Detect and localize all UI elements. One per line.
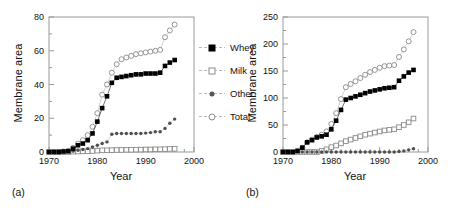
- data-point-other: [81, 148, 84, 151]
- data-point-whey: [334, 118, 339, 123]
- data-point-whey: [339, 108, 344, 113]
- data-point-whey: [392, 85, 397, 90]
- data-point-total: [109, 70, 114, 75]
- data-point-other: [388, 150, 391, 153]
- y-tick-label: 60: [34, 46, 44, 56]
- data-point-whey: [382, 86, 387, 91]
- data-point-total: [134, 52, 139, 57]
- data-point-milk: [114, 148, 119, 153]
- data-point-whey: [324, 132, 329, 137]
- data-point-whey: [110, 81, 115, 86]
- data-point-other: [115, 132, 118, 135]
- data-point-whey: [295, 149, 300, 154]
- data-point-whey: [373, 88, 378, 93]
- data-point-other: [100, 142, 103, 145]
- data-point-milk: [124, 148, 129, 153]
- data-point-milk: [406, 120, 411, 125]
- data-point-total: [129, 53, 134, 58]
- data-point-whey: [363, 91, 368, 96]
- data-point-milk: [377, 129, 382, 134]
- data-point-whey: [172, 58, 177, 63]
- data-point-whey: [76, 143, 81, 148]
- data-point-whey: [158, 70, 163, 75]
- data-point-other: [315, 150, 318, 153]
- data-point-whey: [348, 96, 353, 101]
- plot-frame-b: [283, 17, 428, 152]
- data-point-milk: [139, 147, 144, 152]
- data-point-total: [397, 54, 402, 59]
- legend-marker-milk: [199, 65, 225, 76]
- data-point-other: [168, 122, 171, 125]
- data-point-total: [358, 76, 363, 81]
- x-tick-label: 1970: [273, 156, 293, 166]
- data-point-other: [339, 150, 342, 153]
- data-point-milk: [344, 139, 349, 144]
- data-point-total: [363, 72, 368, 77]
- data-point-milk: [353, 136, 358, 141]
- data-point-whey: [310, 138, 315, 143]
- data-point-whey: [305, 140, 310, 145]
- data-point-other: [383, 150, 386, 153]
- data-point-milk: [158, 147, 163, 152]
- x-tick-label: 1970: [39, 156, 59, 166]
- y-tick-label: 150: [263, 66, 278, 76]
- legend-marker-other: [199, 88, 225, 99]
- data-point-total: [392, 63, 397, 68]
- data-point-whey: [148, 71, 153, 76]
- data-point-milk: [402, 123, 407, 128]
- data-point-whey: [163, 64, 168, 69]
- data-point-other: [125, 132, 128, 135]
- data-point-total: [105, 82, 110, 87]
- data-point-other: [368, 150, 371, 153]
- data-point-total: [158, 47, 163, 52]
- data-point-whey: [47, 150, 52, 155]
- data-point-total: [401, 47, 406, 52]
- data-point-whey: [281, 150, 286, 155]
- data-point-total: [148, 49, 153, 54]
- data-point-other: [110, 133, 113, 136]
- data-point-other: [301, 150, 304, 153]
- data-point-milk: [387, 128, 392, 133]
- data-point-whey: [315, 135, 320, 140]
- data-point-whey: [90, 131, 95, 136]
- data-point-milk: [148, 147, 153, 152]
- data-point-total: [377, 65, 382, 70]
- x-tick-label: 1980: [321, 156, 341, 166]
- data-point-other: [373, 150, 376, 153]
- data-point-other: [139, 132, 142, 135]
- data-point-total: [387, 63, 392, 68]
- data-point-other: [334, 150, 337, 153]
- data-point-whey: [139, 72, 144, 77]
- data-point-other: [129, 132, 132, 135]
- data-point-other: [349, 150, 352, 153]
- data-point-milk: [368, 131, 373, 136]
- data-point-whey: [85, 138, 90, 143]
- data-point-other: [120, 132, 123, 135]
- data-point-total: [339, 97, 344, 102]
- x-axis-label-b: Year: [315, 170, 395, 182]
- chart-panel-b: Membrane area 05010015020025019701980199…: [230, 0, 460, 208]
- data-point-whey: [397, 78, 402, 83]
- data-point-whey: [300, 145, 305, 150]
- data-point-other: [86, 147, 89, 150]
- data-point-whey: [100, 106, 105, 111]
- data-point-total: [143, 50, 148, 55]
- data-point-total: [372, 67, 377, 72]
- data-point-whey: [168, 60, 173, 65]
- data-point-other: [149, 131, 152, 134]
- data-point-other: [354, 150, 357, 153]
- data-point-total: [172, 22, 177, 27]
- y-tick-label: 250: [263, 12, 278, 22]
- data-point-other: [378, 150, 381, 153]
- data-point-milk: [363, 132, 368, 137]
- data-point-other: [305, 150, 308, 153]
- y-tick-label: 80: [34, 12, 44, 22]
- data-point-other: [330, 150, 333, 153]
- data-point-whey: [406, 70, 411, 75]
- data-point-total: [124, 55, 129, 60]
- data-point-milk: [110, 148, 115, 153]
- data-point-whey: [134, 72, 139, 77]
- data-point-other: [359, 150, 362, 153]
- data-point-whey: [56, 150, 61, 155]
- figure-container: Membrane area 0204060801970198019902000 …: [0, 0, 460, 208]
